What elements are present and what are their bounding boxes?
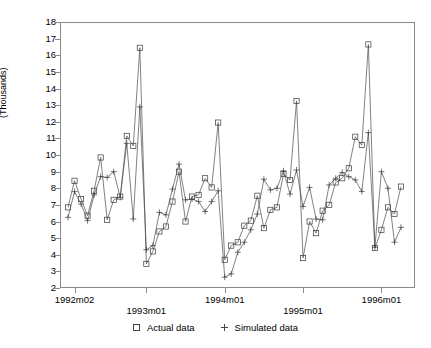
y-tick-label: 13 [30,100,56,110]
y-tick-label: 3 [30,266,56,276]
y-tick-mark [55,288,60,289]
square-marker-icon [133,324,140,331]
y-tick-label: 15 [30,67,56,77]
y-tick-label: 17 [30,34,56,44]
plus-marker-icon [221,324,228,331]
x-tick-mark [75,288,76,293]
y-tick-label: 5 [30,233,56,243]
y-tick-label: 9 [30,167,56,177]
x-tick-label: 1996m01 [362,294,402,305]
legend-label-actual: Actual data [147,322,195,333]
y-tick-label: 18 [30,17,56,27]
x-tick-mark [381,288,382,293]
plot-frame [60,22,415,288]
x-tick-label: 1995m01 [283,305,323,316]
x-tick-label: 1992m02 [55,294,95,305]
legend-entry-actual: Actual data [133,322,195,333]
y-tick-label: 2 [30,283,56,293]
y-tick-label: 12 [30,117,56,127]
x-tick-mark [146,288,147,293]
chart-legend: Actual data Simulated data [0,322,431,333]
y-tick-label: 11 [30,133,56,143]
y-axis-tick-labels: 23456789101112131415161718 [26,0,56,348]
x-tick-mark [303,288,304,293]
x-tick-label: 1993m01 [127,305,167,316]
legend-label-simulated: Simulated data [235,322,298,333]
y-tick-label: 8 [30,183,56,193]
y-axis-title: (Thousands) [0,0,8,118]
y-tick-label: 4 [30,250,56,260]
x-tick-label: 1994m01 [205,294,245,305]
x-tick-mark [225,288,226,293]
y-tick-label: 7 [30,200,56,210]
y-tick-label: 14 [30,84,56,94]
y-tick-label: 6 [30,217,56,227]
legend-entry-simulated: Simulated data [221,322,298,333]
y-tick-label: 16 [30,50,56,60]
chart-container: (Thousands) 23456789101112131415161718 1… [0,0,431,348]
y-tick-label: 10 [30,150,56,160]
